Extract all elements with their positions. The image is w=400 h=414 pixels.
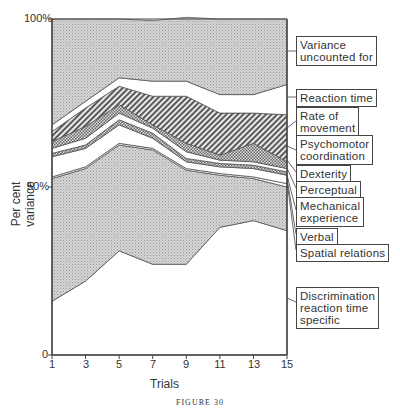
- x-axis-label: Trials: [150, 377, 179, 391]
- x-tick-3: 3: [76, 358, 96, 370]
- legend-discrimination-reaction-time: Discrimination reaction time specific: [296, 287, 379, 329]
- x-tick-7: 7: [143, 358, 163, 370]
- x-tick-5: 5: [109, 358, 129, 370]
- legend-reaction-time: Reaction time: [296, 89, 377, 107]
- legend-mechanical-experience: Mechanical experience: [296, 197, 364, 227]
- y-tick-100: 100%: [24, 12, 52, 24]
- legend-spatial-relations: Spatial relations: [296, 244, 389, 262]
- legend-rate-of-movement: Rate of movement: [296, 107, 359, 137]
- x-tick-9: 9: [176, 358, 196, 370]
- legend-psychomotor-coordination: Psychomotor coordination: [296, 135, 373, 165]
- x-tick-1: 1: [42, 358, 62, 370]
- x-tick-11: 11: [210, 358, 230, 370]
- legend-variance-uncounted: Variance uncounted for: [296, 36, 377, 66]
- y-axis-label: Per cent variance: [9, 159, 37, 249]
- x-tick-13: 13: [244, 358, 264, 370]
- x-tick-15: 15: [277, 358, 297, 370]
- figure-caption: FIGURE 30: [176, 398, 224, 407]
